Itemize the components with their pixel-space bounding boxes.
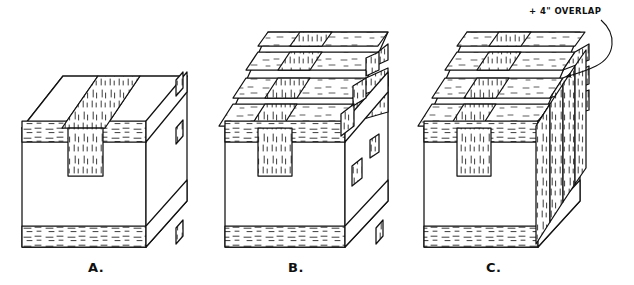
board-weave-diagram: A. xyxy=(0,0,634,285)
panel-a: A. xyxy=(22,72,187,275)
panel-b-strap-tail xyxy=(258,128,292,176)
panel-b-label: B. xyxy=(288,260,304,275)
annotation-label: + 4" OVERLAP xyxy=(529,6,601,16)
panel-c: C. xyxy=(418,32,589,275)
panel-c-strap-tail xyxy=(457,128,491,176)
panel-c-label: C. xyxy=(486,260,501,275)
panel-a-label: A. xyxy=(88,260,104,275)
illustration-canvas: A. xyxy=(0,0,634,285)
panel-b: B. xyxy=(219,32,388,275)
